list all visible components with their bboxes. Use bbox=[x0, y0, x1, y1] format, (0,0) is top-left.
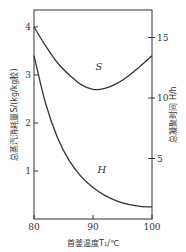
chart: 8090100123451015 SH 首釜温度T₁/℃总蒸汽消耗量S/(kg/… bbox=[0, 0, 186, 252]
curves: SH bbox=[34, 27, 152, 207]
x-tick-label: 80 bbox=[28, 222, 40, 232]
y-left-tick-label: 2 bbox=[25, 118, 31, 128]
y-left-axis-label: 总蒸汽消耗量S/(kg/kg胶) bbox=[9, 68, 19, 160]
axis-ticks: 8090100123451015 bbox=[25, 22, 168, 232]
y-left-tick-label: 4 bbox=[25, 22, 31, 32]
plot-area: 8090100123451015 SH 首釜温度T₁/℃总蒸汽消耗量S/(kg/… bbox=[0, 0, 186, 252]
y-right-tick-label: 15 bbox=[157, 33, 169, 43]
curve-h bbox=[34, 56, 152, 207]
curve-s bbox=[34, 27, 152, 90]
curve-label-h: H bbox=[96, 164, 106, 175]
x-tick-label: 90 bbox=[87, 222, 99, 232]
x-tick-label: 100 bbox=[143, 222, 160, 232]
curve-label-s: S bbox=[95, 61, 102, 72]
y-right-axis-label: 总凝聚时间 H/h bbox=[168, 86, 178, 142]
y-right-tick-label: 5 bbox=[157, 154, 163, 164]
y-left-tick-label: 1 bbox=[25, 166, 31, 176]
x-axis-label: 首釜温度T₁/℃ bbox=[67, 238, 119, 248]
y-right-tick-label: 10 bbox=[157, 93, 169, 103]
y-left-tick-label: 3 bbox=[25, 70, 31, 80]
